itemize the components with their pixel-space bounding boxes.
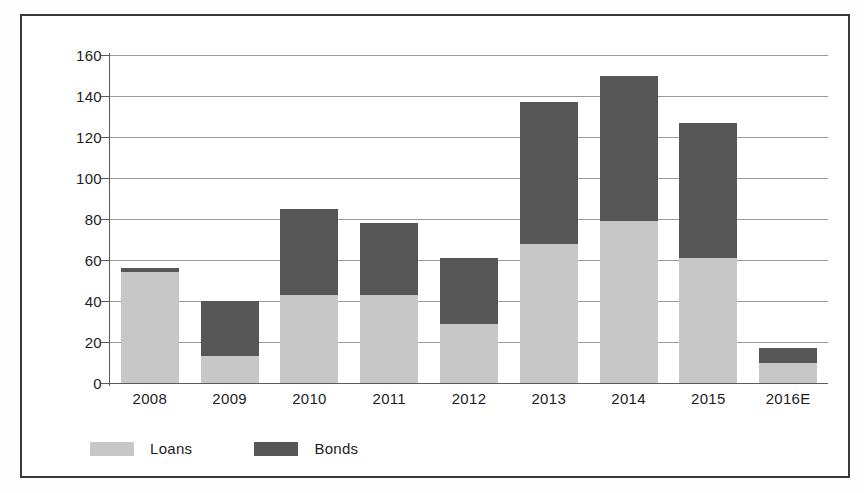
legend-item-bonds[interactable]: Bonds (254, 440, 358, 457)
bar-segment-2009-bonds[interactable] (201, 301, 259, 356)
y-tick-label-80: 80 (56, 211, 102, 228)
bar-2012[interactable] (440, 258, 498, 383)
gridline-0 (110, 383, 828, 384)
x-tick-label-2011: 2011 (350, 390, 428, 407)
y-tick-label-140: 140 (56, 88, 102, 105)
bar-segment-2009-loans[interactable] (201, 356, 259, 383)
bar-segment-2016E-bonds[interactable] (759, 348, 817, 362)
bar-segment-2015-loans[interactable] (679, 258, 737, 383)
x-tick-label-2008: 2008 (111, 390, 189, 407)
y-tick-mark-140 (101, 96, 110, 97)
bar-series-container (110, 55, 828, 383)
bar-segment-2016E-loans[interactable] (759, 363, 817, 384)
y-tick-mark-120 (101, 137, 110, 138)
y-tick-mark-60 (101, 260, 110, 261)
bar-segment-2011-loans[interactable] (360, 295, 418, 383)
bar-segment-2012-bonds[interactable] (440, 258, 498, 324)
bar-2013[interactable] (520, 102, 578, 383)
x-tick-label-2015: 2015 (669, 390, 747, 407)
y-tick-mark-0 (101, 383, 110, 384)
y-tick-mark-80 (101, 219, 110, 220)
legend-label-bonds: Bonds (314, 440, 358, 457)
bar-segment-2008-bonds[interactable] (121, 268, 179, 272)
y-axis-tick-labels: 020406080100120140160 (44, 55, 102, 383)
y-tick-label-100: 100 (56, 170, 102, 187)
y-tick-mark-100 (101, 178, 110, 179)
legend-label-loans: Loans (150, 440, 192, 457)
legend-swatch-loans (90, 442, 134, 456)
y-tick-label-60: 60 (56, 252, 102, 269)
y-tick-mark-20 (101, 342, 110, 343)
plot-area (110, 55, 828, 383)
y-tick-mark-160 (101, 55, 110, 56)
bar-2008[interactable] (121, 268, 179, 383)
y-tick-label-40: 40 (56, 293, 102, 310)
y-tick-label-160: 160 (56, 47, 102, 64)
bar-2009[interactable] (201, 301, 259, 383)
bar-segment-2010-loans[interactable] (280, 295, 338, 383)
y-tick-label-20: 20 (56, 334, 102, 351)
bar-segment-2008-loans[interactable] (121, 272, 179, 383)
chart-figure-frame: 020406080100120140160 200820092010201120… (20, 14, 850, 478)
x-tick-label-2016E: 2016E (749, 390, 827, 407)
bar-segment-2010-bonds[interactable] (280, 209, 338, 295)
x-tick-label-2010: 2010 (270, 390, 348, 407)
bar-2011[interactable] (360, 223, 418, 383)
y-tick-label-0: 0 (56, 375, 102, 392)
bar-2015[interactable] (679, 123, 737, 383)
bar-2016E[interactable] (759, 348, 817, 383)
y-tick-mark-40 (101, 301, 110, 302)
bar-segment-2011-bonds[interactable] (360, 223, 418, 295)
y-tick-label-120: 120 (56, 129, 102, 146)
x-tick-label-2013: 2013 (510, 390, 588, 407)
legend-item-loans[interactable]: Loans (90, 440, 192, 457)
x-axis-tick-labels: 200820092010201120122013201420152016E (110, 390, 828, 416)
bar-segment-2013-bonds[interactable] (520, 102, 578, 243)
x-tick-label-2014: 2014 (590, 390, 668, 407)
bar-2010[interactable] (280, 209, 338, 383)
x-tick-label-2009: 2009 (191, 390, 269, 407)
bar-segment-2015-bonds[interactable] (679, 123, 737, 258)
bar-segment-2014-bonds[interactable] (600, 76, 658, 222)
bar-segment-2012-loans[interactable] (440, 324, 498, 383)
bar-segment-2013-loans[interactable] (520, 244, 578, 383)
legend-swatch-bonds (254, 442, 298, 456)
bar-segment-2014-loans[interactable] (600, 221, 658, 383)
chart-legend: LoansBonds (90, 440, 420, 457)
bar-2014[interactable] (600, 76, 658, 384)
x-tick-label-2012: 2012 (430, 390, 508, 407)
